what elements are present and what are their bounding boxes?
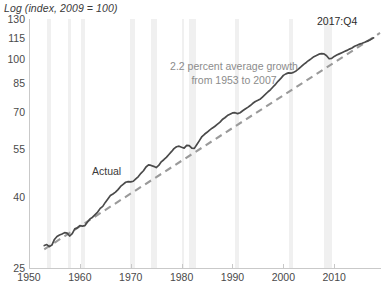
log-index-line-chart: Log (index, 2009 = 100) 1301151008570554… <box>0 0 387 292</box>
x-axis-tick-label: 1980 <box>170 271 193 283</box>
y-axis-line <box>29 19 30 268</box>
trend-annotation: 2.2 percent average growth from 1953 to … <box>148 59 320 87</box>
x-axis-tick-label: 2010 <box>323 271 346 283</box>
series-svg <box>29 19 380 268</box>
y-axis-tick-label: 55 <box>1 143 25 155</box>
x-axis-tick-mark <box>182 264 183 269</box>
x-axis-tick-label: 1970 <box>119 271 142 283</box>
trend-annotation-line-1: 2.2 percent average growth <box>148 59 320 73</box>
y-axis-tick-label: 130 <box>1 13 25 25</box>
y-axis-tick-label: 115 <box>1 32 25 44</box>
y-axis-tick-label: 70 <box>1 106 25 118</box>
x-axis-tick-mark <box>131 264 132 269</box>
y-axis-tick-label: 40 <box>1 191 25 203</box>
x-axis-tick-label: 1990 <box>221 271 244 283</box>
y-axis-tick-label: 85 <box>1 77 25 89</box>
x-axis-tick-mark <box>232 264 233 269</box>
trend-annotation-line-2: from 1953 to 2007 <box>148 73 320 87</box>
actual-series-label: Actual <box>92 165 121 177</box>
x-axis-tick-mark <box>334 264 335 269</box>
y-axis-tick-label: 100 <box>1 53 25 65</box>
x-axis-tick-mark <box>80 264 81 269</box>
x-axis-tick-label: 1950 <box>17 271 40 283</box>
x-axis-tick-label: 2000 <box>272 271 295 283</box>
endpoint-annotation: 2017:Q4 <box>317 15 357 27</box>
x-axis-tick-mark <box>283 264 284 269</box>
x-axis-tick-label: 1960 <box>68 271 91 283</box>
plot-area <box>29 19 380 268</box>
x-axis-line <box>29 268 381 269</box>
x-axis-tick-mark <box>29 264 30 269</box>
